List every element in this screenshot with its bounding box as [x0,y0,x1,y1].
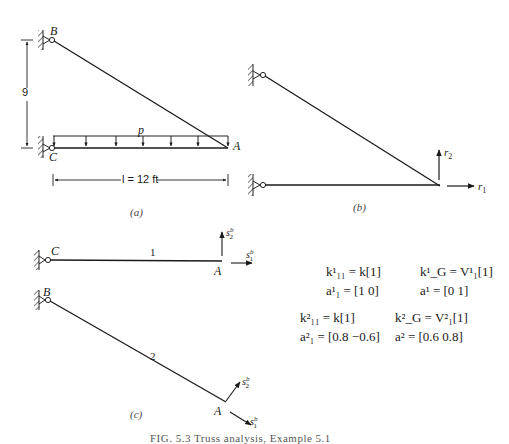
node-b2-label: B [43,285,50,300]
node-b-label: B [50,24,57,39]
r2-label: r2 [444,146,452,161]
member-1-label: 1 [150,246,156,258]
panel-b [248,64,474,196]
panel-b-label: (b) [353,201,366,213]
node-c1-label: C [51,244,59,259]
s2-member2-arrow-icon [226,382,240,401]
horizontal-dim-label: l = 12 ft [122,173,158,185]
s1-member2-arrow-icon [230,412,251,425]
figure-caption: FIG. 5.3 Truss analysis, Example 5.1 [150,432,331,444]
vertical-dim-label: 9 [22,86,28,98]
load-label: p [138,123,144,138]
eq-m2-a1: a²₁ = [0.8 −0.6] [300,329,380,345]
panel-a-label: (a) [130,206,143,218]
member-1 [50,260,222,261]
wall-support-top-icon [248,64,266,86]
wall-support-bottom-icon [248,174,266,196]
node-a1-label: A [214,264,221,279]
eq-m1-k11: k¹₁₁ = k[1] [326,264,381,280]
eq-m2-kG: k²_G = V²₁[1] [395,310,468,326]
node-a-label: A [233,139,240,154]
member-2 [50,301,226,402]
r1-label: r1 [478,180,486,195]
node-a2-label: A [214,404,221,419]
member-2-label: 2 [150,350,156,362]
node-c-label: C [49,150,57,165]
wall-support-c1-icon [34,250,51,270]
eq-m2-a: a² = [0.6 0.8] [395,329,463,345]
s1-member2-label: sb1 [250,415,257,430]
eq-m1-a1: a¹₁ = [1 0] [326,283,379,299]
s1-member1-label: sb1 [246,248,253,263]
s2-member1-label: sb2 [226,226,233,241]
panel-c-label: (c) [130,408,142,420]
eq-m1-a: a¹ = [0 1] [420,283,468,299]
s2-member2-label: sb2 [242,375,249,390]
panel-c [34,232,252,425]
eq-m2-k11: k²₁₁ = k[1] [300,310,355,326]
eq-m1-kG: k¹_G = V¹₁[1] [420,264,493,280]
